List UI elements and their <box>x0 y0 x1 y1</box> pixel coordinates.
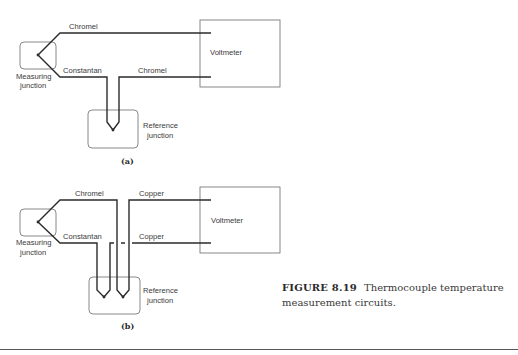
caption-line1: Thermocouple temperature <box>364 282 504 293</box>
reference-junction-dot-b1 <box>103 296 106 299</box>
measuring-junction-label-a-line1: Measuring <box>16 72 51 81</box>
wire-label-copper-bottom-b: Copper <box>139 232 164 241</box>
caption-line2: measurement circuits. <box>282 297 396 308</box>
reference-junction-label-b-line1: Reference <box>143 286 178 295</box>
reference-junction-label-a-line2: junction <box>146 131 173 140</box>
wire-label-constantan-a: Constantan <box>63 66 102 75</box>
measuring-junction-dot-b <box>37 221 40 224</box>
panel-b-sublabel: (b) <box>121 321 134 331</box>
panel-b: Chromel Copper Constantan Copper Voltmet… <box>16 187 280 331</box>
reference-junction-dot-a <box>112 129 115 132</box>
wire-label-constantan-b: Constantan <box>63 232 102 241</box>
voltmeter-label-b: Voltmeter <box>211 216 244 225</box>
figure-caption: FIGURE 8.19Thermocouple temperature meas… <box>282 280 518 310</box>
measuring-junction-label-b-line2: junction <box>19 248 46 257</box>
measuring-junction-dot-a <box>37 54 40 57</box>
page-divider-rule <box>0 349 518 350</box>
chromel-wire-top-a <box>38 33 211 55</box>
reference-junction-label-b-line2: junction <box>146 296 173 305</box>
reference-junction-dot-b2 <box>122 296 125 299</box>
panel-a-sublabel: (a) <box>121 156 134 166</box>
wire-label-chromel-bottom-a: Chromel <box>138 66 167 75</box>
wire-label-chromel-top-a: Chromel <box>69 22 98 31</box>
measuring-junction-label-a-line2: junction <box>19 81 46 90</box>
voltmeter-label-a: Voltmeter <box>210 48 243 57</box>
reference-junction-label-a-line1: Reference <box>143 121 178 130</box>
copper-wire-top-b <box>123 200 211 297</box>
panel-a: Chromel Constantan Chromel Voltmeter Mea… <box>16 20 280 166</box>
wire-label-chromel-b: Chromel <box>75 189 104 198</box>
wire-label-copper-top-b: Copper <box>139 189 164 198</box>
figure-number: FIGURE 8.19 <box>282 282 357 293</box>
measuring-junction-label-b-line1: Measuring <box>16 238 51 247</box>
